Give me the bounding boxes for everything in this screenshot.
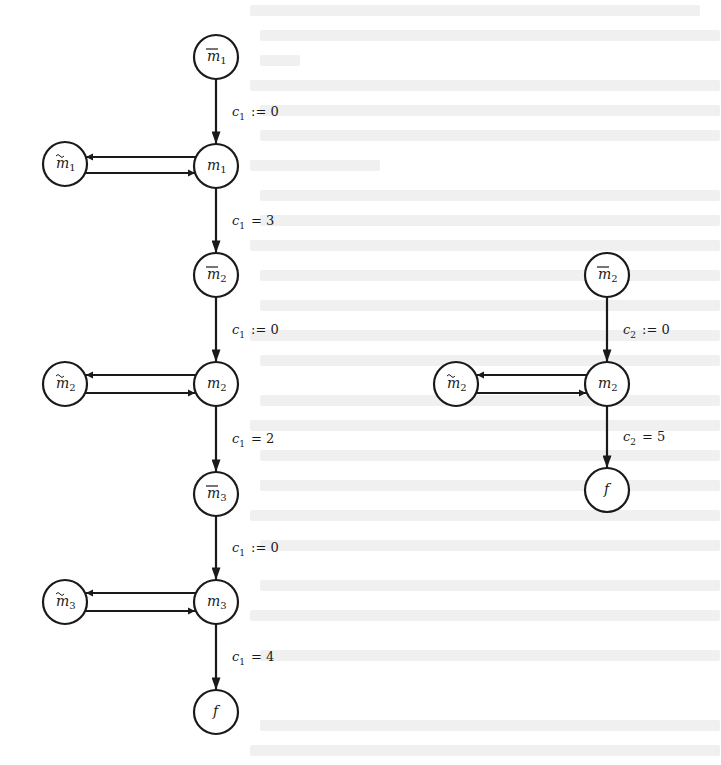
state-node-f: f [194, 690, 238, 734]
state-node-r_m2: m2 [585, 362, 629, 406]
left-graph: c1:= 0c1= 3c1:= 0c1= 2c1:= 0c1= 4m1m1m1m… [43, 35, 279, 734]
state-node-r_mtilde2: m2 [434, 362, 478, 406]
transition-edge: c1= 3 [216, 188, 274, 253]
state-node-mtilde2: m2 [43, 362, 87, 406]
state-diagram: c1:= 0c1= 3c1:= 0c1= 2c1:= 0c1= 4m1m1m1m… [0, 0, 721, 765]
state-node-mbar2: m2 [194, 253, 238, 297]
state-node-r_mbar2: m2 [585, 253, 629, 297]
state-node-m1: m1 [194, 144, 238, 188]
edge-guard-label: c1= 3 [232, 213, 274, 231]
transition-edge: c1= 2 [216, 406, 274, 472]
state-node-mtilde1: m1 [43, 142, 87, 186]
transition-edge: c1:= 0 [216, 516, 279, 580]
edge-guard-label: c1:= 0 [232, 322, 279, 340]
edge-guard-label: c1= 2 [232, 431, 274, 449]
transition-edge: c2:= 0 [607, 297, 670, 362]
state-node-m3: m3 [194, 580, 238, 624]
state-node-r_f: f [585, 468, 629, 512]
edge-guard-label: c2:= 0 [623, 322, 670, 340]
transition-edge: c1:= 0 [216, 79, 279, 144]
state-node-mbar1: m1 [194, 35, 238, 79]
state-node-m2: m2 [194, 362, 238, 406]
edge-guard-label: c2= 5 [623, 429, 665, 447]
state-node-mtilde3: m3 [43, 580, 87, 624]
transition-edge: c2= 5 [607, 406, 665, 468]
edge-guard-label: c1= 4 [232, 649, 274, 667]
right-graph: c2:= 0c2= 5m2m2m2f [434, 253, 670, 512]
state-node-mbar3: m3 [194, 472, 238, 516]
edge-guard-label: c1:= 0 [232, 104, 279, 122]
edge-guard-label: c1:= 0 [232, 540, 279, 558]
transition-edge: c1:= 0 [216, 297, 279, 362]
transition-edge: c1= 4 [216, 624, 274, 690]
